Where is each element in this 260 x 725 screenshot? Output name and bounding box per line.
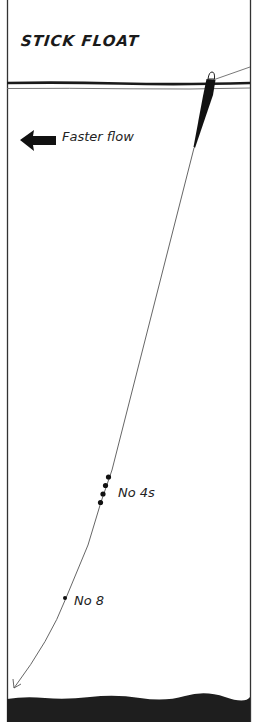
shot-group-no4: [98, 474, 111, 505]
diagram-title: STICK FLOAT: [20, 32, 140, 50]
stick-float-diagram: STICK FLOAT Faster flow No 4s No 8: [0, 0, 260, 725]
frame: [8, 0, 251, 722]
riverbed: [7, 693, 250, 722]
flow-label: Faster flow: [62, 129, 134, 144]
shot-label-no4: No 4s: [118, 485, 155, 500]
shot-no8: [63, 596, 67, 600]
arrow-left-icon: [20, 130, 56, 151]
rod-line: [213, 67, 250, 80]
shot-label-no8: No 8: [74, 593, 104, 608]
